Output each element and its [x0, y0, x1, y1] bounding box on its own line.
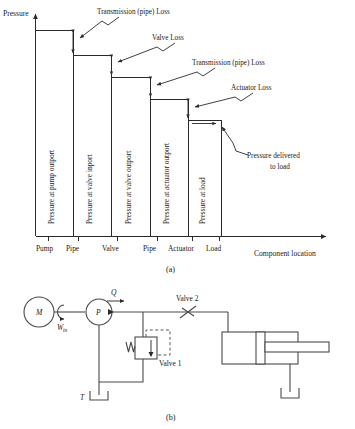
figure-svg: Pressure Component location Pump Pipe Va… — [0, 0, 355, 429]
caption-panel-b: (b) — [166, 413, 176, 422]
delivered-label-line2: to load — [270, 163, 290, 171]
cylinder-piston — [256, 332, 265, 364]
annotation-valve-loss: Valve Loss — [152, 34, 184, 42]
column-label-valve-outport: Pressure at valve outport — [124, 150, 133, 224]
caption-panel-a: (a) — [166, 265, 175, 274]
leader-valve-loss — [118, 43, 175, 62]
y-axis-label: Pressure — [3, 9, 29, 18]
tick-label-pipe-1: Pipe — [66, 244, 80, 253]
delivered-label-line1: Pressure delivered — [247, 152, 300, 160]
leader-transmission-1 — [80, 17, 119, 38]
annotation-transmission-loss-2: Transmission (pipe) Loss — [192, 59, 265, 67]
loss-annotation-labels: Transmission (pipe) Loss Valve Loss Tran… — [97, 8, 272, 92]
annotation-actuator-loss: Actuator Loss — [231, 84, 272, 92]
x-axis-tick-labels: Pump Pipe Valve Pipe Actuator Load — [36, 244, 221, 253]
valve1-symbol — [126, 330, 170, 359]
pump-label: P — [95, 308, 101, 317]
work-input-subscript: in — [63, 327, 67, 333]
valve1-label: Valve 1 — [159, 359, 182, 368]
cylinder-rod — [265, 342, 329, 352]
column-label-load: Pressure at load — [198, 177, 207, 224]
valve1-spring — [126, 342, 135, 352]
tick-label-actuator: Actuator — [168, 244, 194, 253]
tick-label-pump: Pump — [36, 244, 54, 253]
column-labels: Pressure at pump outport Pressure at val… — [47, 142, 207, 224]
x-axis-label: Component location — [254, 249, 316, 258]
column-label-pump-outport: Pressure at pump outport — [47, 149, 56, 224]
schematic-panel: M W in P Q Valve 2 — [24, 288, 329, 422]
x-axis-ticks — [48, 237, 219, 242]
column-label-valve-inport: Pressure at valve inport — [85, 153, 94, 224]
tick-label-pipe-2: Pipe — [143, 244, 157, 253]
annotation-transmission-loss-1: Transmission (pipe) Loss — [97, 8, 170, 16]
valve2-label: Valve 2 — [176, 294, 199, 303]
delivered-callout: Pressure delivered to load — [192, 124, 300, 172]
tick-label-load: Load — [206, 244, 221, 253]
leader-actuator-loss — [195, 93, 253, 107]
column-label-actuator-outport: Pressure at actuator outport — [162, 142, 171, 224]
valve1-body — [135, 337, 157, 359]
tank-label: T — [80, 393, 85, 402]
cylinder-symbol — [222, 332, 329, 398]
leader-transmission-2 — [157, 68, 215, 85]
delivered-leader — [222, 127, 248, 155]
tick-label-valve: Valve — [102, 244, 120, 253]
flow-label: Q — [111, 288, 117, 297]
figure-root: Pressure Component location Pump Pipe Va… — [0, 0, 355, 429]
motor-label: M — [35, 308, 43, 317]
chart-panel: Pressure Component location Pump Pipe Va… — [3, 8, 326, 274]
